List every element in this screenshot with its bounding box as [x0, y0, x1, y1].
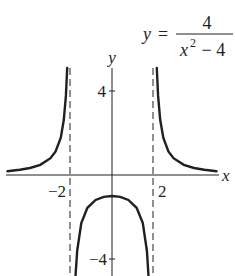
y-tick-label-4: 4 [98, 82, 107, 101]
graph: y x 4 −4 −2 2 y = 4 x 2 − 4 [0, 0, 235, 276]
equation-denominator-base: x [179, 40, 188, 60]
y-tick-label-neg4: −4 [89, 250, 108, 269]
equation-label: y = 4 x 2 − 4 [141, 13, 233, 60]
equation-denominator-exp: 2 [190, 36, 196, 50]
curve-right-branch [157, 68, 217, 171]
equation-lhs: y [141, 24, 151, 44]
x-axis-label: x [221, 166, 230, 185]
equation-equals: = [158, 24, 168, 44]
equation-denominator-rest: − 4 [197, 40, 225, 60]
y-axis-label: y [106, 48, 116, 67]
x-tick-label-neg2: −2 [48, 182, 66, 201]
x-tick-label-2: 2 [158, 182, 167, 201]
equation-numerator: 4 [203, 13, 212, 33]
curve-left-branch [7, 68, 67, 171]
